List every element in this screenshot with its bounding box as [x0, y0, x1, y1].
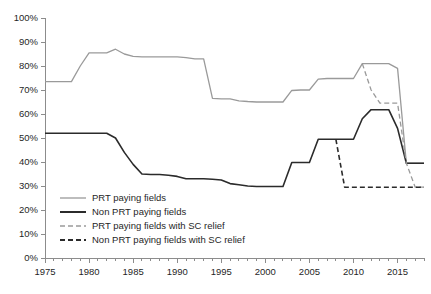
y-axis-tick-label: 50%	[19, 132, 39, 143]
y-axis-tick-label: 10%	[19, 228, 39, 239]
series-line	[45, 110, 424, 187]
legend-item-label: Non PRT paying fields	[92, 206, 186, 217]
x-axis-tick-label: 2010	[343, 266, 364, 277]
x-axis-tick-label: 2015	[387, 266, 408, 277]
chart-series	[45, 49, 424, 187]
x-axis-tick-label: 1985	[123, 266, 144, 277]
chart-legend: PRT paying fieldsNon PRT paying fieldsPR…	[60, 192, 245, 245]
y-axis-tick-label: 20%	[19, 204, 39, 215]
y-axis-tick-label: 70%	[19, 84, 39, 95]
legend-item-label: Non PRT paying fields with SC relief	[92, 234, 245, 245]
series-line	[45, 49, 424, 163]
y-axis-tick-label: 80%	[19, 60, 39, 71]
x-axis-tick-label: 2000	[255, 266, 276, 277]
x-axis-tick-label: 2005	[299, 266, 320, 277]
series-line	[362, 64, 424, 188]
x-axis-tick-label: 1990	[167, 266, 188, 277]
chart-container: 0%10%20%30%40%50%60%70%80%90%100% 197519…	[0, 0, 431, 294]
x-axis-tick-label: 1980	[78, 266, 99, 277]
y-axis-ticks: 0%10%20%30%40%50%60%70%80%90%100%	[14, 12, 45, 263]
y-axis-tick-label: 30%	[19, 180, 39, 191]
legend-item-label: PRT paying fields	[92, 192, 166, 203]
line-chart: 0%10%20%30%40%50%60%70%80%90%100% 197519…	[0, 0, 431, 294]
y-axis-tick-label: 60%	[19, 108, 39, 119]
x-axis-tick-label: 1995	[211, 266, 232, 277]
x-axis-ticks: 197519801985199019952000200520102015	[34, 258, 424, 277]
y-axis-tick-label: 0%	[24, 252, 38, 263]
y-axis-tick-label: 100%	[14, 12, 39, 23]
y-axis-tick-label: 40%	[19, 156, 39, 167]
legend-item-label: PRT paying fields with SC relief	[92, 220, 225, 231]
x-axis-tick-label: 1975	[34, 266, 55, 277]
y-axis-tick-label: 90%	[19, 36, 39, 47]
